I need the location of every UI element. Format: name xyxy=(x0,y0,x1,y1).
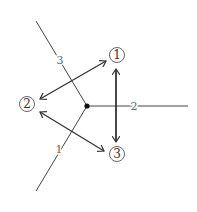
node-3: 3 xyxy=(110,147,125,162)
node-2: 2 xyxy=(20,97,35,112)
node-1-label: 1 xyxy=(113,48,121,62)
arrow-2-3 xyxy=(40,112,104,151)
ray-2-label: 2 xyxy=(131,100,138,113)
ray-3-label: 3 xyxy=(57,54,64,67)
node-1: 1 xyxy=(110,48,125,63)
reflection-diagram: 3 2 1 1 2 3 xyxy=(0,0,197,212)
node-3-label: 3 xyxy=(113,147,121,161)
node-2-label: 2 xyxy=(23,97,31,111)
ray-1-label: 1 xyxy=(56,143,63,156)
arrow-2-1 xyxy=(40,61,106,99)
center-point xyxy=(84,103,89,108)
